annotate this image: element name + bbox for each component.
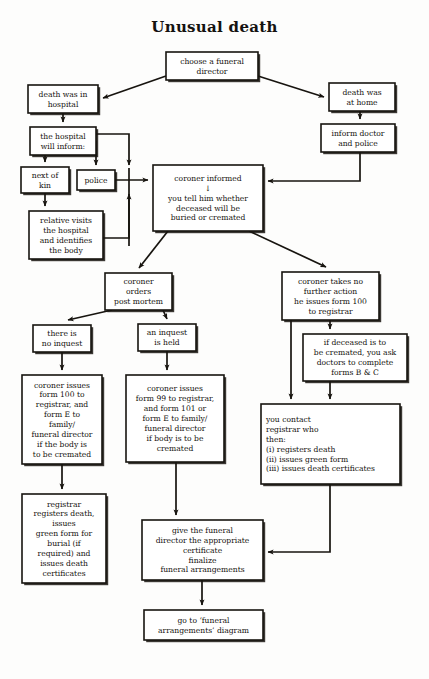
node-text-line: if deceased is to xyxy=(324,338,387,347)
edge-relative-to-coroner-bus xyxy=(103,194,129,238)
node-text-line: certificates xyxy=(42,569,85,578)
node-go-to-funeral-arrangements[interactable]: go to ‘funeralarrangements’ diagram xyxy=(144,610,265,642)
node-text-line: and form 101 or xyxy=(144,404,207,413)
node-text-line: the hospital xyxy=(40,132,86,141)
node-text-line: deceased will be xyxy=(176,204,240,213)
node-text-line: the body xyxy=(49,246,83,255)
node-text-line: form 100 to xyxy=(39,390,85,399)
node-text-line: coroner informed xyxy=(174,174,241,183)
edge-inform-doctor-to-coroner xyxy=(268,152,360,181)
node-text-line: forms B & C xyxy=(331,368,379,377)
node-registrar-registers-death[interactable]: registrarregisters death,issuesgreen for… xyxy=(22,494,108,585)
node-text-line: buried or cremated xyxy=(171,213,246,222)
node-text-line: will inform: xyxy=(41,142,85,151)
node-text-line: registrar, and xyxy=(36,400,89,409)
node-text-line: death was in xyxy=(39,90,88,99)
node-text-line: you contact xyxy=(265,415,311,424)
node-text-line: and identifies xyxy=(40,236,92,245)
node-text-line: form 99 to registrar, xyxy=(136,394,214,403)
node-text-line: inform doctor xyxy=(332,129,385,138)
node-coroner-informed[interactable]: coroner informed↓you tell him whetherdec… xyxy=(153,165,265,233)
node-text-line: coroner takes no xyxy=(298,277,363,286)
node-text-line: required) and xyxy=(38,549,91,558)
node-text-line: director xyxy=(197,67,228,76)
node-text-line: give the funeral xyxy=(172,526,234,535)
node-if-deceased-cremated[interactable]: if deceased is tobe cremated, you askdoc… xyxy=(303,334,409,383)
node-text-line: issues xyxy=(52,519,76,528)
node-text-line: then: xyxy=(266,435,286,444)
node-text-line: next of xyxy=(32,171,60,180)
node-text-line: hospital xyxy=(48,100,79,109)
node-text-line: green form for xyxy=(36,529,93,538)
node-death-in-hospital[interactable]: death was inhospital xyxy=(28,85,100,115)
node-text-line: coroner xyxy=(123,277,153,286)
node-text-line: police xyxy=(84,176,108,185)
node-text-line: relative visits xyxy=(40,216,92,225)
edge-will-inform-to-coroner-bus xyxy=(96,134,129,165)
edge-choose-to-home xyxy=(258,76,324,97)
node-give-funeral-director[interactable]: give the funeraldirector the appropriate… xyxy=(142,520,265,582)
node-coroner-no-further-action[interactable]: coroner takes nofurther actionhe issues … xyxy=(282,272,381,322)
node-text-line: funeral director xyxy=(144,424,205,433)
node-text-line: ↓ xyxy=(205,184,211,193)
edge-coroner-to-post-mortem xyxy=(139,231,168,268)
node-text-line: doctors to complete xyxy=(317,358,394,367)
node-text-line: if body is to be xyxy=(147,434,204,443)
node-text-line: at home xyxy=(346,98,378,107)
diagram-page: Unusual death xyxy=(0,0,429,679)
node-text-line: you tell him whether xyxy=(167,194,248,203)
node-text-line: coroner issues xyxy=(147,384,203,393)
node-text-line: registrar xyxy=(47,500,82,509)
node-text-line: an inquest xyxy=(147,328,187,337)
node-coroner-orders-post-mortem[interactable]: coronerorderspost mortem xyxy=(105,273,174,312)
node-next-of-kin[interactable]: next ofkin xyxy=(21,167,71,195)
node-text-line: arrangements’ diagram xyxy=(158,626,249,635)
node-text-line: there is xyxy=(47,329,76,338)
node-text-line: if the body is xyxy=(37,440,87,449)
node-text-line: registrar who xyxy=(266,425,319,434)
node-no-inquest[interactable]: there isno inquest xyxy=(33,325,93,354)
node-text-line: the hospital xyxy=(43,226,89,235)
node-text-line: coroner issues xyxy=(34,381,90,390)
node-you-contact-registrar[interactable]: you contactregistrar whothen:(i) registe… xyxy=(261,404,402,486)
node-text-line: go to ‘funeral xyxy=(178,616,231,625)
node-coroner-issues-form-99[interactable]: coroner issuesform 99 to registrar,and f… xyxy=(126,375,226,464)
node-relative-visits[interactable]: relative visitsthe hospitaland identifie… xyxy=(29,211,105,261)
node-text-line: funeral arrangements xyxy=(160,565,244,574)
node-text-line: no inquest xyxy=(42,339,82,348)
node-text-line: and police xyxy=(338,139,378,148)
node-inform-doctor-police[interactable]: inform doctorand police xyxy=(321,124,397,154)
node-text-line: form E to family/ xyxy=(143,414,208,423)
node-text-line: be cremated, you ask xyxy=(314,348,397,357)
node-death-at-home[interactable]: death wasat home xyxy=(329,83,397,113)
node-text-line: is held xyxy=(154,338,180,347)
node-inquest-held[interactable]: an inquestis held xyxy=(138,324,198,353)
edge-choose-to-hospital xyxy=(103,76,166,98)
node-text-line: (ii) issues green form xyxy=(266,455,348,464)
node-text-line: further action xyxy=(304,287,358,296)
node-text-line: death was xyxy=(342,88,381,97)
node-text-line: burial (if xyxy=(47,539,82,548)
node-police[interactable]: police xyxy=(77,170,117,192)
node-text-line: issues death xyxy=(40,559,88,568)
node-text-line: registers death, xyxy=(33,509,94,518)
node-choose-funeral-director[interactable]: choose a funeraldirector xyxy=(166,52,260,82)
node-text-line: family/ xyxy=(49,420,76,429)
node-text-line: director the appropriate xyxy=(156,536,250,545)
node-layer: choose a funeraldirectordeath was inhosp… xyxy=(21,52,409,642)
node-text-line: to registrar xyxy=(308,307,353,316)
node-hospital-will-inform[interactable]: the hospitalwill inform: xyxy=(30,127,98,157)
node-text-line: (i) registers death xyxy=(266,445,335,454)
node-text-line: he issues form 100 xyxy=(294,297,367,306)
node-coroner-issues-form-100[interactable]: coroner issuesform 100 toregistrar, andf… xyxy=(22,375,104,466)
edge-coroner-to-no-further-action xyxy=(249,231,326,267)
node-text-line: funeral director xyxy=(31,430,92,439)
node-text-line: form E to xyxy=(44,410,81,419)
node-text-line: finalize xyxy=(189,556,217,565)
node-text-line: certificate xyxy=(183,546,223,555)
node-text-line: to be cremated xyxy=(33,450,91,459)
node-text-line: (iii) issues death certificates xyxy=(266,464,375,473)
node-text-line: post mortem xyxy=(114,297,163,306)
edge-post-mortem-to-no-inquest xyxy=(68,310,112,320)
node-text-line: cremated xyxy=(157,444,194,453)
